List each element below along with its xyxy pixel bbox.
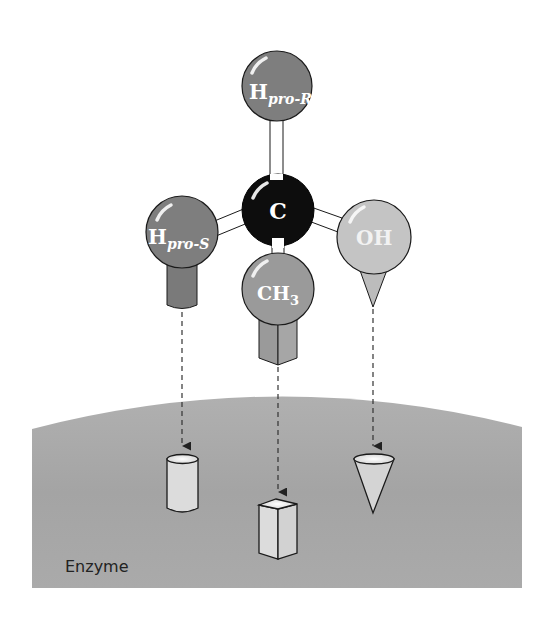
bond-c-h-pro-r [270,118,283,178]
enzyme-label: Enzyme [65,557,129,576]
svg-text:OH: OH [356,226,392,250]
cylinder-site [167,455,198,513]
svg-text:C: C [269,198,287,224]
atom-ch3: CH3 [242,253,314,365]
atom-h-pro-s: Hpro-S [146,196,218,309]
atom-carbon: C [242,174,314,248]
enzyme-stereospecificity-diagram: Enzyme Hpro-R Hpro-S OH CH3 C [0,0,555,620]
atom-h-pro-r: Hpro-R [242,51,312,121]
box-site [259,499,297,559]
atom-oh: OH [337,200,411,307]
